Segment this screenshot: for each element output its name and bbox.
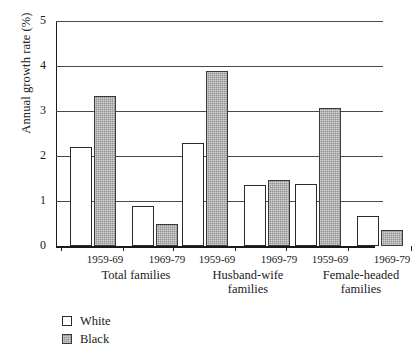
x-axis-group-label: Husband-wifefamilies — [183, 268, 313, 296]
y-axis-tick-label: 0 — [24, 238, 46, 253]
y-axis-tick-label: 4 — [24, 58, 46, 73]
chart-legend: White Black — [62, 313, 111, 349]
x-axis-group-label: Total families — [71, 268, 201, 282]
legend-swatch-black-icon — [62, 334, 72, 344]
y-axis-tick-label: 5 — [24, 13, 46, 28]
x-axis-tick — [235, 246, 236, 251]
y-axis-tick-label: 2 — [24, 148, 46, 163]
legend-item-black: Black — [62, 331, 111, 347]
x-axis-period-label: 1969-79 — [359, 253, 416, 265]
legend-swatch-white-icon — [62, 316, 72, 326]
bar-black-0-0 — [94, 96, 116, 246]
x-axis-tick — [61, 246, 62, 251]
legend-item-white: White — [62, 313, 111, 329]
bar-black-2-1 — [381, 230, 403, 246]
bar-white-2-0 — [295, 184, 317, 246]
bar-black-1-1 — [268, 180, 290, 246]
x-axis-tick — [173, 246, 174, 251]
group-label-line: families — [296, 282, 416, 296]
group-label-line: families — [183, 282, 313, 296]
bar-black-2-0 — [319, 108, 341, 246]
plot-area — [56, 21, 383, 246]
gridline — [56, 21, 383, 22]
x-axis-tick — [123, 246, 124, 251]
bar-white-0-0 — [70, 147, 92, 246]
x-axis-tick — [411, 246, 412, 251]
group-label-line: Female-headed — [296, 268, 416, 282]
x-axis-tick — [286, 246, 287, 251]
bar-black-0-1 — [156, 224, 178, 246]
gridline — [56, 66, 383, 67]
group-label-line: Total families — [71, 268, 201, 282]
legend-label-black: Black — [80, 332, 109, 347]
y-axis-tick-label: 3 — [24, 103, 46, 118]
bar-black-1-0 — [206, 71, 228, 246]
x-axis-period-label: 1959-69 — [297, 253, 363, 265]
x-axis-period-label: 1959-69 — [184, 253, 250, 265]
x-axis-tick — [348, 246, 349, 251]
bar-white-1-0 — [182, 143, 204, 247]
bar-white-0-1 — [132, 206, 154, 247]
legend-label-white: White — [80, 314, 111, 329]
x-axis-baseline — [56, 246, 375, 248]
y-axis-tick-label: 1 — [24, 193, 46, 208]
x-axis-group-label: Female-headedfamilies — [296, 268, 416, 296]
group-label-line: Husband-wife — [183, 268, 313, 282]
bar-white-1-1 — [244, 185, 266, 246]
x-axis-period-label: 1959-69 — [72, 253, 138, 265]
bar-white-2-1 — [357, 216, 379, 246]
y-axis-line — [56, 21, 57, 246]
